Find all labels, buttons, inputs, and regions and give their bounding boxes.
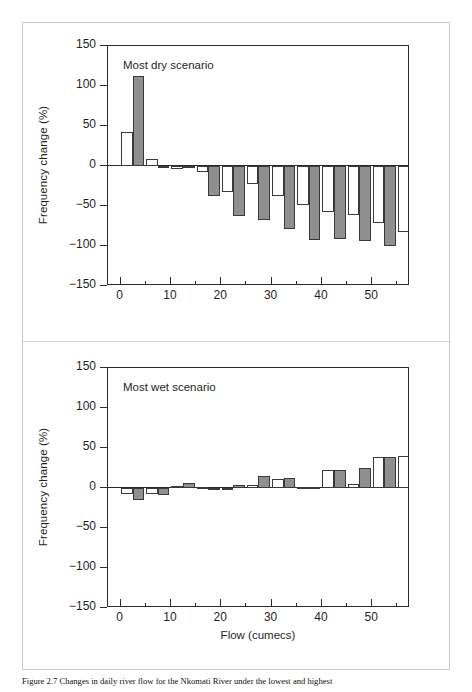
bar-gray (284, 166, 296, 229)
bar-white (373, 457, 385, 488)
y-tick-mark (100, 285, 107, 286)
y-tick-mark (100, 487, 107, 488)
x-tick-mark (321, 599, 322, 607)
bar-gray (208, 166, 220, 196)
bar-white (222, 488, 234, 490)
x-tick-mark (346, 281, 347, 285)
y-tick-mark (100, 245, 107, 246)
bar-gray (258, 166, 270, 220)
bar-gray (133, 488, 145, 500)
bar-white (297, 166, 309, 205)
bar-white (121, 488, 133, 494)
bar-white (373, 166, 385, 223)
y-tick-label: 50 (83, 117, 96, 131)
y-tick-label: −50 (76, 519, 96, 533)
x-tick-mark (195, 281, 196, 285)
y-tick-mark (100, 607, 107, 608)
y-axis-ticks-wet: 150100500−50−100−150 (23, 367, 107, 607)
y-tick-label: −100 (69, 237, 96, 251)
bar-white (171, 166, 183, 169)
bar-gray (384, 457, 396, 488)
bar-gray (359, 166, 371, 241)
y-tick-mark (100, 527, 107, 528)
plot-frame-dry (107, 45, 409, 285)
panel-most-dry: Frequency change (%) 150100500−50−100−15… (23, 27, 451, 327)
panel-divider (23, 341, 451, 342)
y-tick-label: 0 (89, 157, 96, 171)
bar-white (197, 166, 209, 172)
x-tick-mark (396, 603, 397, 607)
x-tick-mark (195, 603, 196, 607)
x-tick-mark (296, 603, 297, 607)
bar-gray (183, 483, 195, 488)
x-axis-ticks-dry: 01020304050 (107, 285, 409, 315)
x-tick-label: 0 (116, 288, 123, 302)
bar-gray (233, 166, 245, 216)
bar-gray (309, 487, 321, 489)
bar-group-most-dry (108, 46, 408, 284)
bar-white (398, 456, 409, 488)
x-tick-mark (346, 603, 347, 607)
bar-gray (359, 468, 371, 488)
bar-white (197, 487, 209, 489)
bar-gray (233, 485, 245, 488)
x-tick-mark (371, 599, 372, 607)
bar-gray (133, 76, 145, 166)
y-tick-label: 50 (83, 439, 96, 453)
x-tick-label: 30 (264, 288, 277, 302)
y-tick-mark (100, 125, 107, 126)
y-tick-mark (100, 407, 107, 408)
y-tick-label: 150 (76, 37, 96, 51)
bar-gray (183, 166, 195, 168)
y-tick-label: −100 (69, 559, 96, 573)
bar-gray (284, 478, 296, 488)
x-tick-label: 50 (365, 288, 378, 302)
x-tick-label: 10 (163, 610, 176, 624)
y-tick-label: 0 (89, 479, 96, 493)
y-tick-label: −150 (69, 277, 96, 291)
panel-title-most-wet: Most wet scenario (123, 381, 216, 393)
x-tick-mark (145, 281, 146, 285)
x-tick-mark (296, 281, 297, 285)
y-tick-label: 100 (76, 399, 96, 413)
x-tick-mark (145, 603, 146, 607)
bar-white (146, 488, 158, 494)
bar-gray (158, 488, 170, 495)
panel-most-wet: Frequency change (%) 150100500−50−100−15… (23, 349, 451, 649)
x-tick-mark (245, 281, 246, 285)
x-tick-mark (120, 599, 121, 607)
y-tick-mark (100, 85, 107, 86)
x-tick-mark (170, 277, 171, 285)
plot-area-most-dry: Frequency change (%) 150100500−50−100−15… (23, 27, 451, 327)
bar-white (121, 132, 133, 166)
bar-gray (384, 166, 396, 246)
y-tick-mark (100, 367, 107, 368)
bar-gray (334, 166, 346, 239)
panel-title-most-dry: Most dry scenario (123, 59, 214, 71)
x-tick-label: 0 (116, 610, 123, 624)
plot-area-most-wet: Frequency change (%) 150100500−50−100−15… (23, 349, 451, 649)
y-tick-label: 150 (76, 359, 96, 373)
y-tick-label: 100 (76, 77, 96, 91)
x-tick-label: 30 (264, 610, 277, 624)
x-tick-mark (321, 277, 322, 285)
y-tick-label: −150 (69, 599, 96, 613)
x-tick-label: 40 (314, 288, 327, 302)
bar-white (348, 484, 360, 488)
x-tick-mark (120, 277, 121, 285)
x-tick-mark (220, 599, 221, 607)
bar-white (297, 487, 309, 489)
bar-group-most-wet (108, 368, 408, 606)
y-tick-mark (100, 447, 107, 448)
x-tick-mark (220, 277, 221, 285)
bar-white (348, 166, 360, 215)
bar-white (322, 166, 334, 212)
bar-white (322, 470, 334, 488)
bar-white (247, 166, 259, 184)
y-axis-ticks-dry: 150100500−50−100−150 (23, 45, 107, 285)
x-tick-mark (371, 277, 372, 285)
x-tick-label: 40 (314, 610, 327, 624)
bar-white (272, 166, 284, 196)
figure-caption: Figure 2.7 Changes in daily river flow f… (22, 676, 450, 692)
x-tick-label: 50 (365, 610, 378, 624)
